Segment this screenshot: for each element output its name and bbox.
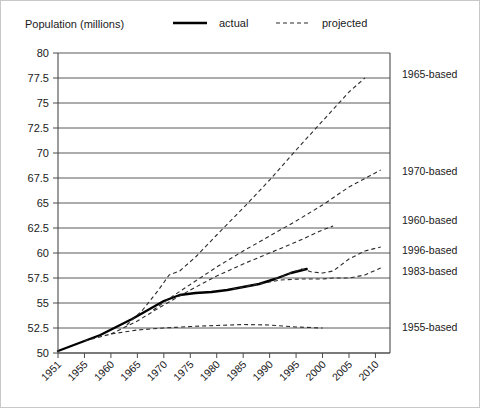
x-axis-tick-label: 1980	[197, 358, 222, 383]
legend: actual projected	[173, 17, 367, 29]
y-axis-tick-label: 80	[37, 47, 49, 59]
series-label-1955-based: 1955-based	[402, 321, 458, 333]
legend-label-actual: actual	[219, 17, 248, 29]
chart-canvas: Population (millions) actual projected 5…	[0, 0, 481, 409]
x-axis-tick-label: 1965	[118, 358, 143, 383]
y-axis-tick-label: 62.5	[28, 222, 49, 234]
series-labels: 1955-based1960-based1965-based1970-based…	[402, 68, 458, 333]
chart-axis-caption: Population (millions)	[25, 18, 124, 30]
x-axis-tick-label: 2000	[303, 358, 328, 383]
series-label-1983-based: 1983-based	[402, 265, 458, 277]
series-line-1965-based	[127, 78, 365, 325]
y-axis-tick-label: 50	[37, 347, 49, 359]
y-axis-tick-label: 55	[37, 297, 49, 309]
series-label-1960-based: 1960-based	[402, 214, 458, 226]
x-axis-tick-label: 1995	[276, 358, 301, 383]
x-axis-tick-label: 2010	[356, 358, 381, 383]
y-axis-tick-label: 77.5	[28, 72, 49, 84]
population-projection-chart: Population (millions) actual projected 5…	[0, 0, 481, 409]
series-line-1955-based	[84, 325, 322, 342]
y-axis-tick-label: 57.5	[28, 272, 49, 284]
y-axis-ticks: 5052.55557.56062.56567.57072.57577.580	[28, 47, 58, 359]
x-axis-tick-label: 1970	[144, 358, 169, 383]
x-axis-tick-label: 1955	[65, 358, 90, 383]
y-axis-tick-label: 52.5	[28, 322, 49, 334]
y-axis-tick-label: 75	[37, 97, 49, 109]
y-axis-tick-label: 70	[37, 147, 49, 159]
legend-label-projected: projected	[322, 17, 367, 29]
data-series	[58, 78, 381, 351]
series-line-1970-based	[153, 170, 380, 310]
y-axis-tick-label: 65	[37, 197, 49, 209]
series-label-1965-based: 1965-based	[402, 68, 458, 80]
series-line-1960-based	[111, 226, 333, 334]
series-label-1970-based: 1970-based	[402, 165, 458, 177]
x-axis-tick-label: 2005	[329, 358, 354, 383]
x-axis-ticks: 1951195519601965197019751980198519901995…	[38, 353, 381, 383]
series-line-actual	[58, 269, 307, 351]
x-axis-tick-label: 1951	[38, 358, 63, 383]
series-label-1996-based: 1996-based	[402, 244, 458, 256]
x-axis-tick-label: 1990	[250, 358, 275, 383]
gridlines	[58, 53, 390, 353]
y-axis-tick-label: 60	[37, 247, 49, 259]
x-axis-tick-label: 1985	[224, 358, 249, 383]
x-axis-tick-label: 1960	[91, 358, 116, 383]
y-axis-tick-label: 72.5	[28, 122, 49, 134]
x-axis-tick-label: 1975	[171, 358, 196, 383]
y-axis-tick-label: 67.5	[28, 172, 49, 184]
